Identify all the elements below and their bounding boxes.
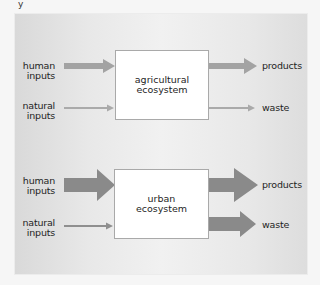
urban-ecosystem-box: urban ecosystem [114,169,209,239]
agri-waste-label: waste [262,103,289,113]
label-line: inputs [5,228,55,238]
label-line: inputs [5,186,55,196]
agri-products-label: products [262,61,302,71]
urban-waste-label: waste [262,220,289,230]
agri-human-inputs-label: human inputs [5,61,55,81]
agri-waste-output-arrow [209,105,255,112]
agri-natural-input-arrow [64,105,114,112]
urban-natural-inputs-label: natural inputs [5,218,55,238]
urban-human-inputs-label: human inputs [5,176,55,196]
system-label-line: ecosystem [135,85,189,95]
agri-products-output-arrow [209,58,257,74]
urban-human-input-arrow [64,169,115,201]
agri-natural-inputs-label: natural inputs [5,101,55,121]
label-line: inputs [5,71,55,81]
label-line: inputs [5,111,55,121]
urban-natural-input-arrow [64,223,113,230]
urban-products-output-arrow [209,168,258,202]
urban-products-label: products [262,180,302,190]
arrows-layer [0,0,320,285]
urban-waste-output-arrow [209,211,256,237]
system-label-line: ecosystem [136,204,187,214]
agri-human-input-arrow [64,59,115,73]
agricultural-ecosystem-box: agricultural ecosystem [115,50,209,120]
